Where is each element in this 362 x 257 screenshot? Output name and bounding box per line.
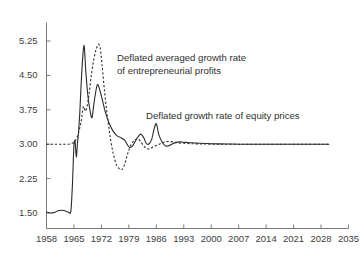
y-axis-tick-label: 1.50 <box>0 208 38 218</box>
x-axis-ticks <box>47 225 349 229</box>
y-axis-tick-label: 2.25 <box>0 174 38 184</box>
chart-plot-area <box>0 0 362 257</box>
y-axis-tick-label: 4.50 <box>0 70 38 80</box>
y-axis-tick-label: 3.75 <box>0 105 38 115</box>
y-axis-ticks <box>47 41 51 213</box>
annotation-entrepreneurial-profits-line2: of entrepreneurial profits <box>117 65 246 78</box>
annotation-entrepreneurial-profits-line1: Deflated averaged growth rate <box>117 52 246 65</box>
y-axis-tick-label: 3.00 <box>0 139 38 149</box>
annotation-entrepreneurial-profits: Deflated averaged growth rate of entrepr… <box>117 52 246 77</box>
annotation-equity-prices: Deflated growth rate of equity prices <box>146 110 300 123</box>
x-axis-tick-label: 2035 <box>333 234 362 244</box>
y-axis-tick-label: 5.25 <box>0 36 38 46</box>
chart-container: 5.254.503.753.002.251.50 195819651972197… <box>0 0 362 257</box>
annotation-equity-prices-line1: Deflated growth rate of equity prices <box>146 110 300 123</box>
